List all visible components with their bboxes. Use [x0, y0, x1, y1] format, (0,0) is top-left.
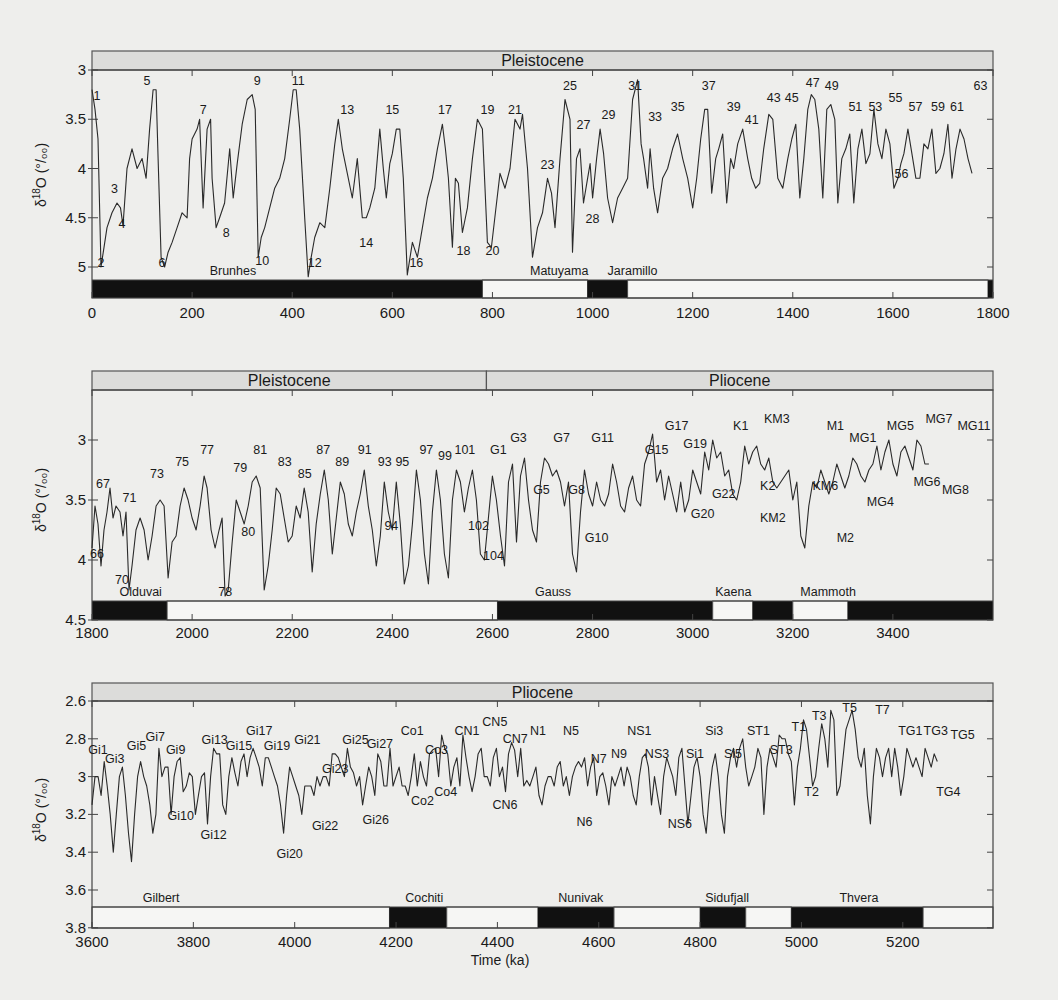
- isotope-stage-label: Co2: [411, 794, 434, 808]
- isotope-stage-label: 94: [384, 519, 398, 533]
- isotope-stage-label: KM2: [760, 511, 786, 525]
- isotope-stage-label: G5: [533, 483, 550, 497]
- polarity-reversed-segment: [482, 280, 587, 298]
- isotope-stage-label: Gi19: [264, 739, 290, 753]
- polarity-normal-segment: [497, 601, 712, 620]
- isotope-stage-label: NS6: [668, 817, 692, 831]
- y-tick-label: 3.5: [65, 491, 86, 508]
- chron-label: Cochiti: [405, 891, 443, 905]
- isotope-stage-label: T2: [804, 785, 819, 799]
- isotope-stage-label: 49: [825, 79, 839, 93]
- chron-label: Nunivak: [558, 891, 604, 905]
- chron-label: Jaramillo: [608, 264, 658, 278]
- polarity-normal-segment: [791, 907, 923, 928]
- x-tick-label: 4600: [582, 933, 615, 950]
- isotope-stage-label: G15: [645, 443, 669, 457]
- x-tick-label: 1400: [776, 304, 809, 321]
- isotope-stage-label: 10: [255, 254, 269, 268]
- isotope-stage-label: Gi12: [200, 828, 226, 842]
- isotope-stage-label: MG11: [957, 419, 990, 433]
- isotope-stage-label: Gi20: [276, 847, 302, 861]
- y-tick-label: 2.6: [65, 692, 86, 709]
- polarity-normal-segment: [92, 280, 482, 298]
- isotope-curve: [92, 434, 929, 596]
- epoch-label: Pleistocene: [248, 372, 331, 389]
- isotope-stage-label: G1: [490, 443, 507, 457]
- polarity-reversed-segment: [628, 280, 988, 298]
- polarity-normal-segment: [389, 907, 446, 928]
- polarity-normal-segment: [753, 601, 793, 620]
- x-axis-title-text: Time (ka): [471, 952, 530, 968]
- polarity-reversed-segment: [923, 907, 993, 928]
- isotope-stage-label: 63: [974, 79, 988, 93]
- isotope-stage-label: 9: [254, 74, 261, 88]
- isotope-stage-label: 97: [419, 443, 433, 457]
- isotope-curve: [92, 80, 972, 277]
- isotope-stage-label: M2: [837, 531, 854, 545]
- isotope-stage-label: 91: [358, 443, 372, 457]
- isotope-stage-label: 77: [200, 443, 214, 457]
- isotope-stage-label: 59: [931, 100, 945, 114]
- isotope-stage-label: 57: [908, 100, 922, 114]
- y-tick-label: 4: [78, 551, 86, 568]
- isotope-stage-label: 75: [175, 455, 189, 469]
- polarity-reversed-segment: [746, 907, 792, 928]
- isotope-stage-label: Si5: [724, 747, 742, 761]
- isotope-stage-label: G10: [585, 531, 609, 545]
- y-tick-label: 4.5: [65, 611, 86, 628]
- isotope-stage-label: T5: [842, 701, 857, 715]
- isotope-stage-label: M1: [827, 419, 844, 433]
- x-tick-label: 1200: [676, 304, 709, 321]
- isotope-stage-label: G11: [591, 431, 614, 445]
- chron-label: Thvera: [839, 891, 878, 905]
- isotope-stage-label: G3: [510, 431, 527, 445]
- isotope-stage-label: T7: [875, 703, 890, 717]
- isotope-stage-label: 93: [378, 455, 392, 469]
- isotope-stage-label: CN6: [492, 798, 517, 812]
- epoch-label: Pliocene: [512, 684, 573, 701]
- isotope-stage-label: 18: [456, 244, 470, 258]
- isotope-stage-label: 39: [727, 100, 741, 114]
- isotope-stage-label: 47: [806, 76, 820, 90]
- chron-label: Kaena: [715, 585, 751, 599]
- isotope-stage-label: 19: [480, 103, 494, 117]
- isotope-stage-label: 37: [702, 79, 716, 93]
- isotope-stage-label: T1: [792, 720, 807, 734]
- isotope-stage-label: 61: [950, 100, 964, 114]
- isotope-stage-label: MG7: [925, 412, 952, 426]
- isotope-stage-label: 45: [785, 91, 799, 105]
- isotope-stage-label: Gi26: [363, 813, 389, 827]
- isotope-stage-label: 17: [438, 103, 452, 117]
- isotope-stage-label: MG6: [913, 475, 940, 489]
- isotope-stage-label: MG1: [849, 431, 876, 445]
- isotope-stage-label: 67: [96, 477, 110, 491]
- isotope-stage-label: NS1: [627, 724, 651, 738]
- isotope-stage-label: 29: [602, 108, 616, 122]
- isotope-stage-label: Gi22: [312, 819, 338, 833]
- panel-top: Pleistocene02004006008001000120014001600…: [31, 51, 1010, 321]
- y-tick-label: 3.8: [65, 919, 86, 936]
- isotope-stage-label: Co1: [401, 724, 424, 738]
- epoch-label: Pliocene: [709, 372, 770, 389]
- isotope-stage-label: ST1: [747, 724, 770, 738]
- y-tick-label: 5: [78, 258, 86, 275]
- isotope-stage-label: 21: [508, 103, 522, 117]
- y-tick-label: 3: [78, 768, 86, 785]
- isotope-stage-label: G19: [683, 437, 707, 451]
- chron-label: Sidufjall: [705, 891, 749, 905]
- isotope-stage-label: 14: [359, 236, 373, 250]
- isotope-stage-label: 78: [218, 585, 232, 599]
- isotope-stage-label: 28: [586, 212, 600, 226]
- isotope-stage-label: T3: [812, 709, 827, 723]
- isotope-stage-label: NS3: [645, 747, 669, 761]
- chron-label: Gauss: [535, 585, 571, 599]
- x-tick-label: 400: [280, 304, 305, 321]
- isotope-stage-label: 87: [316, 443, 330, 457]
- isotope-stage-label: Gi7: [146, 730, 166, 744]
- x-tick-label: 2200: [276, 624, 309, 641]
- isotope-stage-label: 81: [253, 443, 267, 457]
- x-tick-label: 2600: [476, 624, 509, 641]
- isotope-stage-label: 3: [111, 182, 118, 196]
- isotope-stage-label: 83: [278, 455, 292, 469]
- y-axis-title: δ18O (°/₀₀): [31, 468, 49, 532]
